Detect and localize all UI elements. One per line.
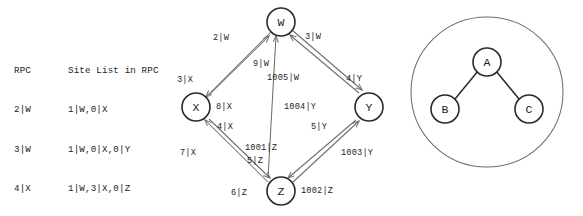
tree-in-circle-diagram: A B C (0, 0, 583, 216)
tree-edge-a-b (455, 71, 478, 99)
enclosing-circle (411, 17, 563, 167)
tree-node-label-b: B (442, 103, 449, 116)
tree-node-label-a: A (484, 56, 491, 69)
tree-edge-a-c (496, 71, 519, 99)
figure-canvas: RPCSite List in RPC 2|W1|W,0|X 3|W1|W,0|… (0, 0, 583, 216)
tree-node-label-c: C (526, 103, 533, 116)
